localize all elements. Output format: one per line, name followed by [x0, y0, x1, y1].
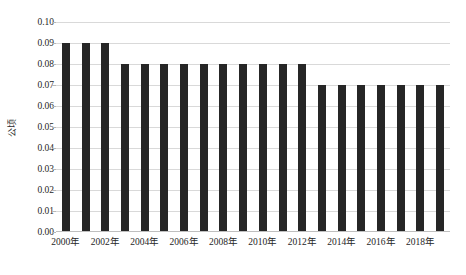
bar [338, 85, 346, 232]
bar [357, 85, 365, 232]
y-tick-label: 0.05 [24, 122, 54, 132]
plot-area [56, 22, 450, 232]
x-tick-label: 2018年 [397, 236, 443, 248]
y-tick-label: 0.08 [24, 59, 54, 69]
x-axis-line [56, 231, 450, 232]
bar [279, 64, 287, 232]
x-axis-tick-labels: 2000年2002年2004年2006年2008年2010年2012年2014年… [56, 236, 450, 256]
bar [298, 64, 306, 232]
bar [200, 64, 208, 232]
bar [62, 43, 70, 232]
y-axis-tick-labels: 0.100.090.080.070.060.050.040.030.020.01… [24, 0, 54, 275]
y-tick-mark [52, 232, 56, 233]
bar [318, 85, 326, 232]
cropped-header-remnant [180, 0, 466, 9]
bar [397, 85, 405, 232]
bar [436, 85, 444, 232]
bar [219, 64, 227, 232]
y-tick-label: 0.01 [24, 206, 54, 216]
y-axis-title-label: 公顷 [8, 119, 17, 137]
bar [416, 85, 424, 232]
bar [101, 43, 109, 232]
bar [82, 43, 90, 232]
y-axis-title: 公顷 [2, 98, 24, 158]
y-tick-label: 0.09 [24, 38, 54, 48]
bar [160, 64, 168, 232]
bar [121, 64, 129, 232]
y-tick-label: 0.04 [24, 143, 54, 153]
bar [239, 64, 247, 232]
bar [377, 85, 385, 232]
y-tick-label: 0.07 [24, 80, 54, 90]
bar-chart: 公顷 0.100.090.080.070.060.050.040.030.020… [0, 0, 466, 275]
y-tick-label: 0.10 [24, 17, 54, 27]
y-tick-label: 0.06 [24, 101, 54, 111]
y-tick-label: 0.02 [24, 185, 54, 195]
bar [141, 64, 149, 232]
y-tick-label: 0.03 [24, 164, 54, 174]
bar [259, 64, 267, 232]
bar-series [56, 22, 450, 232]
bar [180, 64, 188, 232]
